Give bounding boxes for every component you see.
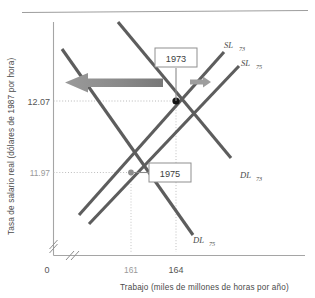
curve-dl73 — [118, 22, 231, 158]
labor-market-chart: 1973 1975 SL 73 SL 75 DL 73 DL 75 12.07 … — [0, 0, 315, 298]
y-axis-title: Tasa de salario real (dólares de 1987 po… — [7, 58, 16, 235]
curve-label-dl73-text: DL — [239, 170, 251, 180]
curve-label-sl73-text: SL — [224, 40, 233, 50]
curve-label-sl73-sub: 73 — [239, 45, 245, 52]
curve-label-sl75: SL 75 — [241, 58, 262, 70]
figure-container: 1973 1975 SL 73 SL 75 DL 73 DL 75 12.07 … — [0, 0, 315, 298]
curve-label-dl73: DL 73 — [239, 170, 262, 182]
y-tick-label-11-97: 11.97 — [30, 168, 51, 178]
curve-label-dl75-sub: 75 — [209, 240, 215, 247]
curve-label-sl75-text: SL — [241, 58, 250, 68]
top-rule — [22, 11, 308, 13]
equilibrium-marker-1975 — [128, 170, 134, 176]
callout-1973[interactable]: 1973 — [155, 48, 197, 67]
y-tick-label-12-07: 12.07 — [27, 97, 50, 107]
x-tick-label-161: 161 — [124, 265, 138, 275]
callout-1975[interactable]: 1975 — [149, 163, 191, 182]
origin-label: 0 — [44, 265, 49, 275]
curve-label-dl75: DL 75 — [192, 235, 215, 247]
x-axis-title: Trabajo (miles de millones de horas por … — [120, 283, 289, 292]
curve-sl73 — [79, 52, 224, 215]
curve-label-dl75-text: DL — [192, 235, 204, 245]
callout-1973-label: 1973 — [166, 54, 186, 64]
curve-sl75 — [89, 66, 239, 224]
x-tick-label-164: 164 — [168, 265, 183, 275]
curve-label-dl73-sub: 73 — [256, 175, 262, 182]
curve-label-sl73: SL 73 — [224, 40, 245, 52]
curve-label-sl75-sub: 75 — [256, 63, 262, 70]
callout-1975-label: 1975 — [160, 169, 180, 179]
